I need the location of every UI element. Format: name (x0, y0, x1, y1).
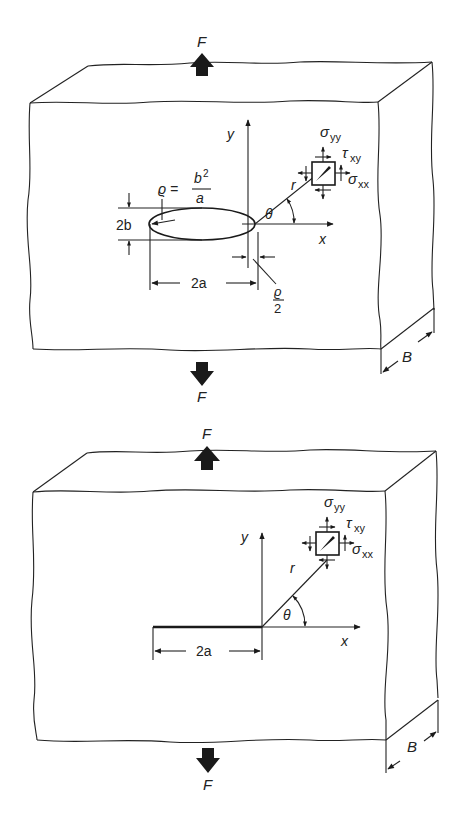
figure-sharp-crack: F F B 2a y x r θ (31, 425, 438, 793)
load-bottom-label: F (197, 388, 207, 405)
svg-text:τ: τ (346, 514, 353, 531)
svg-text:σ: σ (348, 170, 358, 187)
plate-outline (27, 62, 434, 351)
thickness-dimension: B (386, 700, 438, 773)
height-dimension: 2b (116, 193, 202, 255)
angle-label: θ (265, 206, 273, 222)
load-arrow-down-icon (190, 362, 214, 386)
y-axis-label: y (226, 126, 235, 142)
tip-radius-arrow (152, 220, 175, 224)
load-arrow-up-icon (190, 53, 214, 76)
elliptical-hole (149, 208, 255, 240)
height-label: 2b (116, 217, 132, 233)
load-arrow-up-icon (194, 446, 220, 470)
length-dimension: 2a (153, 627, 262, 660)
length-label: 2a (191, 275, 207, 291)
y-axis-label: y (240, 529, 249, 545)
thickness-label: B (402, 348, 412, 365)
radius-label: r (290, 560, 296, 576)
plate-outline (31, 450, 438, 743)
x-axis-label: x (318, 231, 327, 247)
svg-text:τ: τ (342, 144, 349, 161)
load-top-label: F (197, 33, 207, 50)
diagram-canvas: F F B ϱ = b 2 a 2b (0, 0, 462, 815)
svg-text:a: a (196, 190, 204, 206)
svg-text:2: 2 (274, 301, 281, 316)
svg-text:xy: xy (354, 522, 366, 534)
stress-element: σ yy τ xy σ xx (298, 123, 370, 199)
svg-text:xy: xy (350, 152, 362, 164)
angle-arc (287, 199, 294, 223)
svg-text:ϱ =: ϱ = (158, 181, 178, 197)
load-bottom-label: F (203, 776, 213, 793)
svg-text:xx: xx (362, 548, 374, 560)
svg-text:yy: yy (334, 501, 346, 513)
x-axis-label: x (340, 633, 349, 649)
load-arrow-down-icon (196, 748, 220, 773)
svg-text:ϱ: ϱ (274, 284, 282, 299)
svg-text:xx: xx (358, 178, 370, 190)
svg-text:σ: σ (320, 123, 330, 140)
svg-text:yy: yy (330, 131, 342, 143)
angle-arc (293, 596, 305, 626)
svg-text:σ: σ (324, 493, 334, 510)
load-top-label: F (202, 425, 212, 442)
stress-element: σ yy τ xy σ xx (302, 493, 374, 569)
thickness-dimension: B (381, 308, 434, 374)
svg-text:σ: σ (352, 540, 362, 557)
svg-text:b: b (194, 170, 202, 186)
svg-text:2: 2 (203, 168, 209, 179)
figure-elliptical-hole: F F B ϱ = b 2 a 2b (27, 33, 434, 405)
angle-label: θ (283, 607, 291, 623)
length-label: 2a (196, 643, 212, 659)
thickness-label: B (407, 738, 417, 755)
